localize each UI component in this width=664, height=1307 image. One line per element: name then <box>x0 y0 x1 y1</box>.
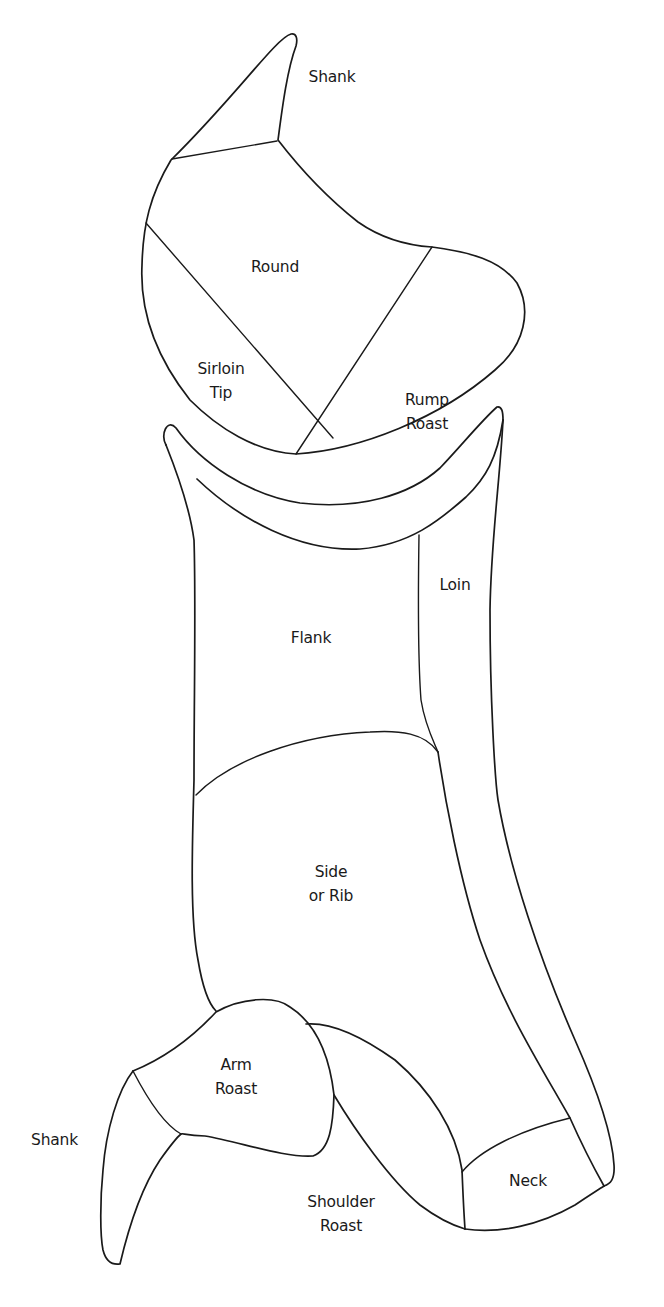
loin-left-divider <box>418 535 438 752</box>
label-shoulder-roast: Shoulder Roast <box>307 1190 374 1238</box>
spine-inner-edge <box>438 752 604 1186</box>
label-hind-shank: Shank <box>309 65 356 89</box>
label-flank: Flank <box>291 626 332 650</box>
round-sirloin-divider <box>146 223 333 438</box>
arm-shank-divider <box>133 1071 181 1134</box>
label-loin: Loin <box>439 573 470 597</box>
fore-shank-outline <box>101 1071 181 1264</box>
label-round: Round <box>251 255 299 279</box>
label-fore-shank: Shank <box>31 1128 78 1152</box>
spine-outer-edge <box>490 420 614 1186</box>
label-arm-roast: Arm Roast <box>215 1053 257 1101</box>
label-side-or-rib: Side or Rib <box>309 860 354 908</box>
label-sirloin-tip: Sirloin Tip <box>197 357 244 405</box>
meat-cuts-diagram <box>0 0 664 1307</box>
flank-side-divider <box>196 731 438 795</box>
neck-upper-divider <box>462 1118 570 1172</box>
label-rump-roast: Rump Roast <box>405 388 449 436</box>
side-left-edge <box>166 445 216 1011</box>
label-neck: Neck <box>509 1169 547 1193</box>
